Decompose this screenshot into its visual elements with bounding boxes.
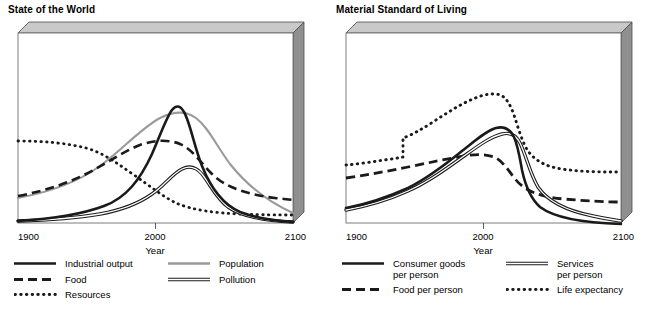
legend-swatch-double-icon bbox=[168, 274, 212, 285]
legend-label: Food per person bbox=[393, 284, 463, 296]
legend-item-resources[interactable]: Resources bbox=[14, 289, 164, 301]
legend-left: Industrial output Food Resources bbox=[0, 258, 328, 313]
xtick-label-1900-right: 1900 bbox=[346, 231, 367, 242]
legend-label: Life expectancy bbox=[557, 284, 623, 296]
xtick-label-2100-left: 2100 bbox=[285, 231, 306, 242]
legend-label: Resources bbox=[65, 289, 110, 301]
legend-right: Consumer goods per person Food per perso… bbox=[328, 258, 656, 313]
legend-label: Pollution bbox=[219, 274, 255, 286]
xtick-label-2000-right: 2000 bbox=[472, 231, 493, 242]
legend-swatch-dotted-icon bbox=[506, 284, 550, 295]
legend-item-population[interactable]: Population bbox=[168, 258, 318, 270]
xtick-label-2100-right: 2100 bbox=[613, 231, 634, 242]
legend-item-services-per-person[interactable]: Services per person bbox=[506, 258, 656, 280]
legend-swatch-dotted-icon bbox=[14, 289, 58, 300]
legend-swatch-dashed-icon bbox=[14, 274, 58, 285]
legend-swatch-solid-gray-icon bbox=[168, 258, 212, 269]
legend-label: Industrial output bbox=[65, 258, 133, 270]
legend-label: Services per person bbox=[557, 258, 602, 280]
legend-item-industrial-output[interactable]: Industrial output bbox=[14, 258, 164, 270]
xaxis-label-left: Year bbox=[145, 245, 164, 256]
legend-label: Population bbox=[219, 258, 264, 270]
legend-item-pollution[interactable]: Pollution bbox=[168, 274, 318, 286]
legend-item-food-per-person[interactable]: Food per person bbox=[342, 284, 502, 296]
legend-item-consumer-goods-per-person[interactable]: Consumer goods per person bbox=[342, 258, 502, 280]
legend-swatch-solid-icon bbox=[14, 258, 58, 269]
legend-column-a-right: Consumer goods per person Food per perso… bbox=[342, 258, 502, 300]
frame-right-bevel-right bbox=[621, 22, 632, 223]
legend-label: Consumer goods per person bbox=[393, 258, 465, 280]
xtick-label-2000-left: 2000 bbox=[144, 231, 165, 242]
frame-right-bevel-left bbox=[293, 22, 304, 223]
chart-plot-right: 1900 2000 2100 Year bbox=[328, 14, 656, 258]
xtick-label-1900-left: 1900 bbox=[18, 231, 39, 242]
legend-swatch-solid-icon bbox=[342, 258, 386, 269]
chart-panel-state-of-the-world: State of the World 1900 2000 bbox=[0, 0, 328, 313]
chart-plot-left: 1900 2000 2100 Year bbox=[0, 14, 328, 258]
legend-label: Food bbox=[65, 274, 87, 286]
legend-swatch-double-icon bbox=[506, 258, 550, 269]
chart-panel-material-standard-of-living: Material Standard of Living 1900 2000 21… bbox=[328, 0, 656, 313]
legend-column-b-right: Services per person Life expectancy bbox=[506, 258, 656, 300]
xaxis-label-right: Year bbox=[473, 245, 492, 256]
frame-top-bevel-right bbox=[346, 22, 632, 33]
legend-item-life-expectancy[interactable]: Life expectancy bbox=[506, 284, 656, 296]
legend-item-food[interactable]: Food bbox=[14, 274, 164, 286]
frame-top-bevel-left bbox=[18, 22, 304, 33]
legend-swatch-dashed-icon bbox=[342, 284, 386, 295]
plot-area-left bbox=[18, 33, 293, 223]
plot-area-right bbox=[346, 33, 621, 223]
figure-root: State of the World 1900 2000 bbox=[0, 0, 656, 313]
legend-column-b-left: Population Pollution bbox=[168, 258, 318, 289]
legend-column-a-left: Industrial output Food Resources bbox=[14, 258, 164, 305]
